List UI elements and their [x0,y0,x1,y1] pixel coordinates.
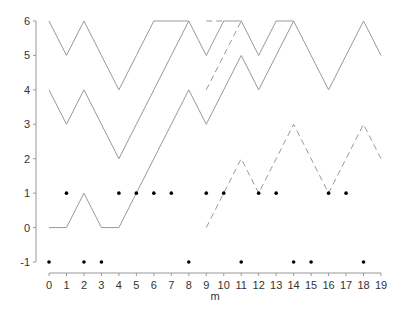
y-tick-label: 6 [24,15,30,27]
series-layer [49,21,381,228]
x-tick-label: 5 [133,279,139,291]
marker-layer [47,191,365,263]
x-tick-label: 18 [357,279,369,291]
data-dot [152,191,156,195]
dashed-diagonal-line [206,21,241,90]
x-tick-label: 7 [168,279,174,291]
data-dot [170,191,174,195]
y-tick-label: -1 [20,256,30,268]
data-dot [47,260,51,264]
data-dot [82,260,86,264]
data-dot [222,191,226,195]
x-tick-label: 8 [186,279,192,291]
data-dot [100,260,104,264]
y-tick-label: 5 [24,49,30,61]
x-tick-label: 2 [81,279,87,291]
x-tick-label: 3 [98,279,104,291]
x-axis: 012345678910111213141516171819 [46,273,387,291]
x-tick-label: 19 [375,279,387,291]
x-tick-label: 1 [63,279,69,291]
data-dot [274,191,278,195]
data-dot [309,260,313,264]
dashed-bottom-line [206,124,381,227]
data-dot [65,191,69,195]
x-tick-label: 12 [253,279,265,291]
data-dot [362,260,366,264]
x-tick-label: 14 [288,279,300,291]
data-dot [204,191,208,195]
data-dot [135,191,139,195]
y-tick-label: 3 [24,118,30,130]
data-dot [117,191,121,195]
data-dot [239,260,243,264]
chart: -10123456 012345678910111213141516171819… [0,0,408,318]
x-axis-title: m [210,290,219,302]
data-dot [292,260,296,264]
x-tick-label: 0 [46,279,52,291]
x-tick-label: 11 [235,279,246,291]
x-tick-label: 15 [305,279,317,291]
path-top-line [49,21,381,90]
y-axis: -10123456 [20,15,36,268]
y-tick-label: 0 [24,222,30,234]
y-tick-label: 4 [24,84,30,96]
x-tick-label: 17 [340,279,352,291]
data-dot [327,191,331,195]
data-dot [187,260,191,264]
data-dot [257,191,261,195]
x-tick-label: 9 [203,279,209,291]
x-tick-label: 13 [270,279,282,291]
x-tick-label: 16 [322,279,334,291]
data-dot [344,191,348,195]
y-tick-label: 1 [24,187,30,199]
x-tick-label: 4 [116,279,122,291]
y-tick-label: 2 [24,153,30,165]
x-tick-label: 6 [151,279,157,291]
